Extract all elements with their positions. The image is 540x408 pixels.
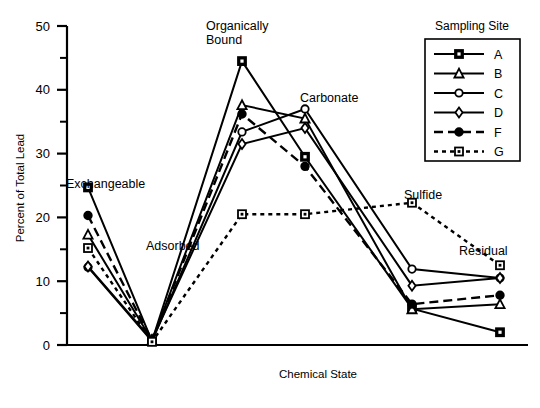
data-point-square xyxy=(496,328,504,336)
category-label: Carbonate xyxy=(300,91,358,105)
data-point-circle xyxy=(301,105,308,112)
legend-label-F: F xyxy=(494,126,502,140)
y-tick-label: 40 xyxy=(36,82,50,97)
y-tick-label: 0 xyxy=(43,338,50,353)
data-point-open-square xyxy=(148,338,156,346)
category-label: Sulfide xyxy=(404,188,442,202)
data-point-circle xyxy=(408,265,415,272)
legend-box xyxy=(425,39,520,161)
lead-speciation-line-chart: 01020304050 ExchangeableAdsorbedOrganica… xyxy=(0,0,540,408)
y-tick-label: 10 xyxy=(36,274,50,289)
data-point-circle xyxy=(455,89,462,96)
data-point-open-square xyxy=(301,210,309,218)
y-tick-label: 50 xyxy=(36,19,50,34)
category-label: Exchangeable xyxy=(66,177,145,191)
data-point-square xyxy=(455,50,463,58)
data-point-open-square xyxy=(496,261,504,269)
data-point-open-square xyxy=(84,244,92,252)
data-point-filled-circle xyxy=(455,128,463,136)
legend-title: Sampling Site xyxy=(435,19,509,33)
data-point-square xyxy=(238,57,246,65)
category-label: Residual xyxy=(459,244,508,258)
data-point-circle xyxy=(238,128,245,135)
legend-label-G: G xyxy=(494,145,504,159)
data-point-open-square xyxy=(455,148,463,156)
chart-figure: 01020304050 ExchangeableAdsorbedOrganica… xyxy=(0,0,540,408)
data-point-filled-circle xyxy=(238,110,246,118)
data-point-open-square xyxy=(238,210,246,218)
data-point-square xyxy=(301,153,309,161)
y-tick-label: 20 xyxy=(36,210,50,225)
category-label: Adsorbed xyxy=(146,239,200,253)
y-axis-title: Percent of Total Lead xyxy=(14,134,26,242)
data-point-filled-circle xyxy=(301,163,309,171)
legend-label-C: C xyxy=(494,87,503,101)
data-point-filled-circle xyxy=(84,212,92,220)
legend: Sampling Site ABCDFG xyxy=(425,19,520,161)
data-point-filled-circle xyxy=(408,300,416,308)
legend-label-A: A xyxy=(494,48,503,62)
y-tick-label: 30 xyxy=(36,146,50,161)
legend-label-B: B xyxy=(494,67,502,81)
x-axis-title: Chemical State xyxy=(279,368,357,380)
legend-label-D: D xyxy=(494,106,503,120)
data-point-filled-circle xyxy=(496,291,504,299)
